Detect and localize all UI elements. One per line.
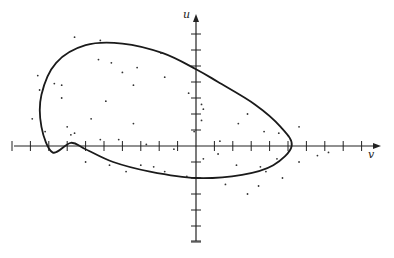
scatter-point — [70, 134, 72, 136]
scatter-point — [37, 75, 39, 77]
scatter-point — [160, 52, 162, 54]
scatter-point — [133, 123, 135, 125]
scatter-point — [110, 62, 112, 64]
scatter-point — [188, 92, 190, 94]
scatter-point — [263, 131, 265, 133]
scatter-point — [217, 153, 219, 155]
scatter-point — [202, 108, 204, 110]
scatter-point — [109, 164, 111, 166]
scatter-point — [140, 164, 142, 166]
scatter-point — [219, 140, 221, 142]
scatter-point — [61, 84, 63, 86]
scatter-point — [282, 177, 284, 179]
scatter-point — [145, 144, 147, 146]
scatter-point — [164, 171, 166, 173]
scatter-point — [186, 176, 188, 178]
scatter-point — [44, 131, 46, 133]
scatter-point — [85, 161, 87, 163]
scatter-point — [258, 185, 260, 187]
scatter-point — [98, 59, 100, 61]
scatter-point — [99, 139, 101, 141]
scatter-point — [328, 152, 330, 154]
scatter-point — [53, 83, 55, 85]
scatter-point — [99, 40, 101, 42]
scatter-point — [31, 118, 33, 120]
scatter-point — [201, 104, 203, 106]
scatter-point — [125, 171, 127, 173]
scatter-point — [298, 126, 300, 128]
scatter-point — [265, 171, 267, 173]
boundary-curve — [40, 43, 292, 178]
scatter-point — [236, 164, 238, 166]
scatter-point — [247, 113, 249, 115]
scatter-point — [173, 148, 175, 150]
scatter-point — [193, 131, 195, 133]
scatter-point — [39, 89, 41, 91]
scatter-point — [276, 158, 278, 160]
v-axis-label: v — [368, 148, 374, 161]
scatter-point — [90, 118, 92, 120]
scatter-point — [317, 155, 319, 157]
scatter-point — [133, 84, 135, 86]
scatter-point — [105, 100, 107, 102]
scatter-point — [153, 166, 155, 168]
scatter-point — [61, 97, 63, 99]
scatter-point — [74, 36, 76, 38]
scatter-point — [202, 158, 204, 160]
scatter-point — [122, 72, 124, 74]
scatter-point — [118, 139, 120, 141]
scatter-point — [225, 184, 227, 186]
scatter-point — [298, 161, 300, 163]
u-axis-label: u — [183, 8, 190, 21]
u-axis-arrow-icon — [193, 14, 199, 22]
scatter-point — [164, 76, 166, 78]
scatter-point — [74, 132, 76, 134]
scatter-point — [247, 193, 249, 195]
scatter-point — [278, 132, 280, 134]
scatter-point — [237, 123, 239, 125]
scatter-point — [66, 126, 68, 128]
chart-plot — [0, 0, 394, 258]
scatter-point — [260, 166, 262, 168]
scatter-point — [201, 120, 203, 122]
scatter-point — [136, 67, 138, 69]
